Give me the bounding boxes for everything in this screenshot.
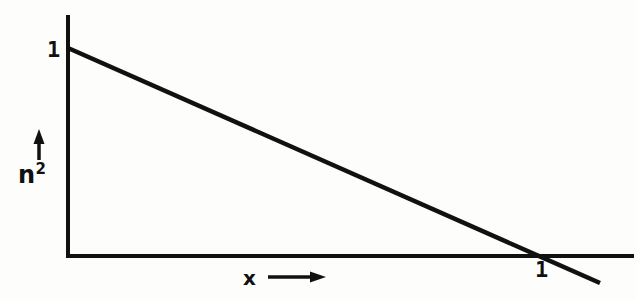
up-arrow-icon <box>34 129 45 160</box>
plot-svg <box>0 0 636 300</box>
right-arrow-icon <box>268 272 326 283</box>
data-line-n2 <box>68 48 600 283</box>
x-axis-tick-label-1: 1 <box>535 259 548 281</box>
y-axis-label: n2 <box>18 163 47 187</box>
y-axis-label-base: n <box>18 161 36 189</box>
y-axis-label-exponent: 2 <box>36 160 47 178</box>
figure-canvas: 1 1 n2 x <box>0 0 636 300</box>
y-axis-tick-label-1: 1 <box>47 39 60 61</box>
x-axis-label: x <box>243 268 256 288</box>
